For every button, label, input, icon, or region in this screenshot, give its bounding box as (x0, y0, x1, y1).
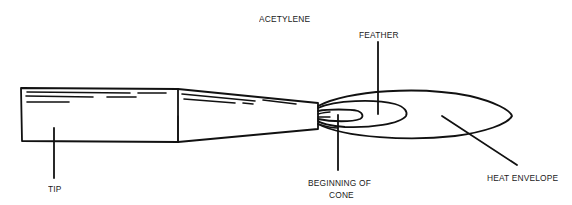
beginning-of-cone-label-line1: BEGINNING OF (308, 177, 371, 188)
heat-envelope-outline (318, 91, 512, 139)
inner-cone-outline (318, 110, 362, 122)
acetylene-label: ACETYLENE (259, 13, 310, 24)
tip-shading-lines (26, 92, 166, 102)
feather-label: FEATHER (359, 29, 399, 40)
heat-envelope-leader-line (442, 116, 517, 165)
tapered-nozzle (178, 89, 318, 142)
heat-envelope-label: HEAT ENVELOPE (487, 172, 558, 183)
tip-label: TIP (48, 183, 62, 194)
beginning-of-cone-label-line2: CONE (329, 189, 354, 200)
